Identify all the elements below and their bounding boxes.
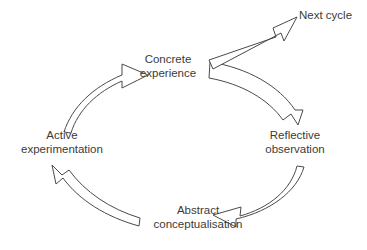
node-label-next-cycle-line1: Next cycle xyxy=(299,8,363,22)
node-label-reflective-observation: Reflective observation xyxy=(252,128,338,156)
arrow-abstract-to-active xyxy=(52,165,140,226)
node-label-abstract-conceptualisation-line1: Abstract xyxy=(140,203,256,217)
node-label-abstract-conceptualisation: Abstract conceptualisation xyxy=(140,203,256,231)
node-label-reflective-observation-line1: Reflective xyxy=(252,128,338,142)
node-label-active-experimentation: Active experimentation xyxy=(8,128,116,156)
node-label-active-experimentation-line2: experimentation xyxy=(8,142,116,156)
kolb-learning-cycle-diagram: Concrete experience Reflective observati… xyxy=(0,0,367,250)
node-label-next-cycle: Next cycle xyxy=(299,8,363,22)
node-label-reflective-observation-line2: observation xyxy=(252,142,338,156)
node-label-concrete-experience-line2: experience xyxy=(128,66,208,80)
node-label-active-experimentation-line1: Active xyxy=(8,128,116,142)
node-label-concrete-experience-line1: Concrete xyxy=(128,52,208,66)
arrow-concrete-to-next-cycle xyxy=(209,17,297,69)
arrow-concrete-to-reflective xyxy=(209,62,303,125)
node-label-abstract-conceptualisation-line2: conceptualisation xyxy=(140,217,256,231)
node-label-concrete-experience: Concrete experience xyxy=(128,52,208,80)
